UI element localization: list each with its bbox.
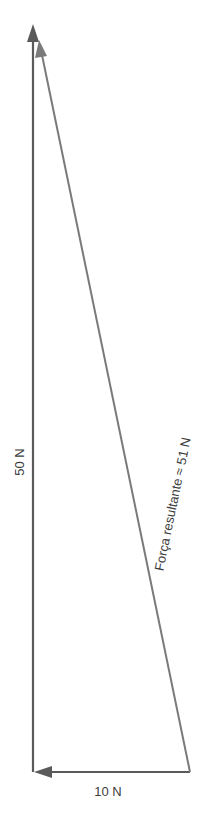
resultant-force-vector bbox=[35, 40, 190, 772]
horizontal-force-vector bbox=[34, 766, 190, 778]
horizontal-force-label: 10 N bbox=[94, 784, 121, 799]
arrowhead-left-icon bbox=[34, 766, 52, 778]
arrowhead-diagonal-icon bbox=[35, 40, 47, 58]
resultant-force-label: Força resultante ≈ 51 N bbox=[151, 436, 193, 572]
vertical-force-label: 50 N bbox=[12, 448, 27, 475]
arrowhead-up-icon bbox=[27, 24, 39, 42]
vertical-force-vector bbox=[27, 24, 39, 772]
force-diagram: 50 N 10 N Força resultante ≈ 51 N bbox=[0, 0, 201, 829]
